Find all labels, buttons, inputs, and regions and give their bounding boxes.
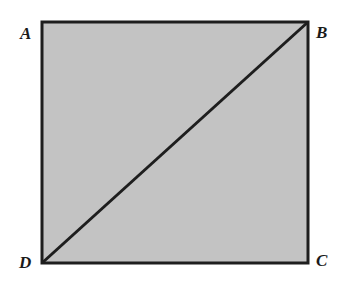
vertex-label-a: A — [20, 25, 31, 42]
vertex-label-b: B — [316, 24, 327, 41]
vertex-label-c: C — [316, 252, 327, 269]
square-diagram — [0, 0, 346, 281]
vertex-label-d: D — [19, 254, 31, 271]
